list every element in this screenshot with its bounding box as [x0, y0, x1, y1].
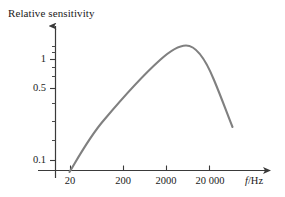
chart-figure: Relative sensitivity f/Hz	[0, 0, 285, 197]
y-tick-label-0.1: 0.1	[16, 155, 46, 166]
y-tick-label-0.5: 0.5	[16, 83, 46, 94]
x-tick-label-20: 20	[50, 176, 90, 187]
plot-area	[0, 0, 285, 197]
y-tick-label-1: 1	[16, 54, 46, 65]
x-tick-label-20000: 20 000	[187, 176, 233, 187]
sensitivity-curve	[70, 46, 233, 173]
x-axis-ticks	[71, 166, 210, 171]
x-tick-label-200: 200	[103, 176, 143, 187]
y-axis-major-ticks	[50, 60, 56, 161]
x-tick-label-2000: 2000	[146, 176, 186, 187]
